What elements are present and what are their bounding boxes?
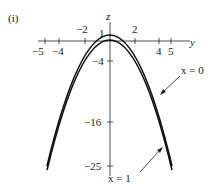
y-tick-label: −2 (76, 23, 88, 35)
y-tick-label: 4 (156, 45, 162, 57)
z-tick-label: −4 (92, 55, 104, 67)
curve-x-1 (47, 40, 172, 170)
y-tick-label: −5 (32, 45, 44, 57)
annotation-x-1: x = 1 (108, 172, 131, 184)
panel-label: (i) (8, 12, 19, 25)
annotation-x-0: x = 0 (181, 64, 204, 76)
z-tick-label: −16 (84, 116, 102, 128)
z-axis-label: z (105, 10, 111, 22)
z-tick-label: −25 (84, 160, 102, 172)
arrow-x-1 (140, 150, 160, 172)
chart: (i) z y −5 −4 −2 2 4 5 1 −4 −16 −25 x = … (0, 0, 221, 188)
y-tick-label: 2 (132, 23, 138, 35)
curve-x-0 (47, 35, 172, 166)
arrow-x-0 (163, 76, 180, 92)
y-tick-label: −4 (52, 45, 64, 57)
y-tick-label: 5 (168, 45, 174, 57)
y-axis-label: y (189, 36, 195, 48)
